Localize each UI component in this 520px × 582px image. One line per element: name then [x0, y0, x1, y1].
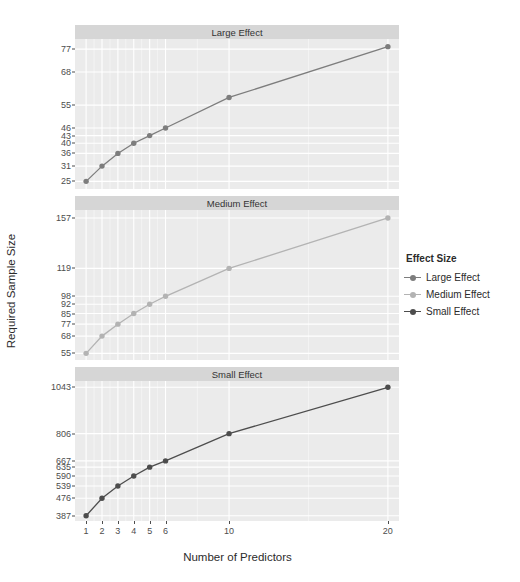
data-point [163, 125, 168, 130]
x-tick-mark [388, 521, 389, 524]
legend: Effect Size Large EffectMedium EffectSma… [404, 253, 516, 320]
data-point [226, 431, 231, 436]
data-point [147, 133, 152, 138]
data-point [83, 513, 88, 518]
y-tick-mark [72, 127, 75, 128]
y-tick-mark [72, 143, 75, 144]
facet-panel: Large Effect [75, 25, 399, 189]
y-axis-title: Required Sample Size [0, 0, 22, 582]
data-line [86, 47, 388, 182]
data-point [385, 215, 390, 220]
x-tick-mark [229, 521, 230, 524]
y-tick-label: 476 [56, 493, 71, 503]
x-tick-mark [150, 521, 151, 524]
y-tick-mark [72, 387, 75, 388]
y-tick-label: 36 [61, 148, 71, 158]
data-line [86, 387, 388, 515]
legend-key-icon [404, 269, 421, 286]
facet-panel: Medium Effect [75, 196, 399, 360]
x-tick-label: 2 [99, 526, 104, 536]
data-point [385, 385, 390, 390]
data-point [99, 333, 104, 338]
y-tick-label: 55 [61, 100, 71, 110]
y-tick-label: 667 [56, 456, 71, 466]
y-tick-label: 77 [61, 44, 71, 54]
x-tick-label: 20 [383, 526, 393, 536]
y-tick-mark [72, 304, 75, 305]
data-point [147, 464, 152, 469]
y-tick-label: 590 [56, 471, 71, 481]
legend-items: Large EffectMedium EffectSmall Effect [404, 269, 516, 320]
y-tick-label: 77 [61, 319, 71, 329]
legend-item[interactable]: Large Effect [404, 269, 516, 286]
legend-item[interactable]: Small Effect [404, 303, 516, 320]
y-axis-title-text: Required Sample Size [5, 234, 17, 348]
y-tick-mark [72, 135, 75, 136]
y-tick-mark [72, 217, 75, 218]
data-point [131, 141, 136, 146]
y-tick-label: 119 [57, 263, 71, 273]
legend-item-label: Small Effect [426, 306, 479, 317]
data-point [163, 294, 168, 299]
data-point [226, 266, 231, 271]
x-tick-label: 6 [163, 526, 168, 536]
data-point [115, 483, 120, 488]
y-tick-label: 31 [61, 161, 71, 171]
y-tick-label: 85 [61, 309, 71, 319]
y-tick-mark [72, 485, 75, 486]
y-tick-label: 98 [61, 291, 71, 301]
x-tick-label: 3 [115, 526, 120, 536]
y-tick-mark [72, 460, 75, 461]
data-point [226, 95, 231, 100]
y-axis-ticks: 3874765395906356678061043 [34, 381, 71, 521]
y-tick-mark [72, 353, 75, 354]
y-axis-ticks: 253136404346556877 [34, 39, 71, 189]
y-tick-label: 68 [61, 331, 71, 341]
y-tick-label: 539 [56, 481, 71, 491]
y-tick-mark [72, 515, 75, 516]
plot-area [75, 381, 399, 521]
data-point [131, 311, 136, 316]
y-tick-label: 1043 [51, 382, 71, 392]
y-tick-label: 46 [61, 123, 71, 133]
legend-item-label: Large Effect [426, 272, 480, 283]
legend-key-icon [404, 303, 421, 320]
y-tick-mark [72, 49, 75, 50]
data-point [83, 179, 88, 184]
y-tick-label: 55 [61, 348, 71, 358]
x-tick-mark [118, 521, 119, 524]
x-tick-label: 1 [84, 526, 89, 536]
x-tick-mark [86, 521, 87, 524]
data-point [385, 44, 390, 49]
y-tick-mark [72, 324, 75, 325]
x-tick-label: 4 [131, 526, 136, 536]
x-tick-mark [102, 521, 103, 524]
data-point [115, 321, 120, 326]
y-axis-ticks: 556877859298119157 [34, 210, 71, 360]
y-tick-mark [72, 181, 75, 182]
x-tick-label: 5 [147, 526, 152, 536]
x-axis: 1234561020 [75, 521, 399, 545]
data-line [86, 218, 388, 353]
y-tick-mark [72, 268, 75, 269]
legend-item[interactable]: Medium Effect [404, 286, 516, 303]
y-tick-label: 157 [56, 213, 71, 223]
y-tick-mark [72, 498, 75, 499]
y-tick-mark [72, 105, 75, 106]
legend-key-icon [404, 286, 421, 303]
facet-strip-label: Large Effect [75, 25, 399, 39]
facet-strip-label: Medium Effect [75, 196, 399, 210]
y-tick-mark [72, 475, 75, 476]
y-tick-mark [72, 296, 75, 297]
y-tick-mark [72, 72, 75, 73]
x-tick-mark [166, 521, 167, 524]
legend-item-label: Medium Effect [426, 289, 490, 300]
y-tick-label: 25 [61, 176, 71, 186]
x-tick-mark [134, 521, 135, 524]
data-point [115, 151, 120, 156]
y-tick-mark [72, 467, 75, 468]
y-tick-mark [72, 166, 75, 167]
y-tick-mark [72, 153, 75, 154]
x-axis-title: Number of Predictors [75, 551, 400, 563]
plot-area [75, 39, 399, 189]
